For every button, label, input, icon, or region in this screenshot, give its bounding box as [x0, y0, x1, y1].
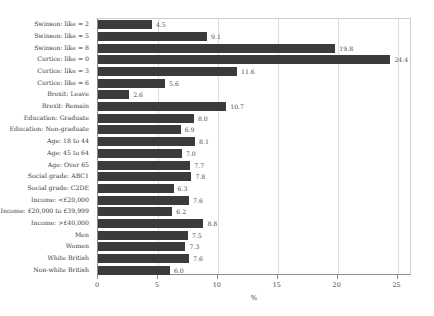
x-axis-tick-label: 15 — [273, 281, 281, 289]
bar-chart: Swinson: like = 2Swinson: like = 5Swinso… — [0, 0, 434, 316]
bar-row[interactable]: 2.6 — [98, 90, 143, 99]
category-label: Swinson: like = 8 — [0, 43, 93, 52]
category-label: Brexit: Remain — [0, 101, 93, 110]
bar-row[interactable]: 8.8 — [98, 219, 217, 228]
category-label: Brexit: Leave — [0, 89, 93, 98]
bar-row[interactable]: 7.6 — [98, 196, 203, 205]
bar-value-label: 4.5 — [156, 20, 166, 29]
bar[interactable] — [98, 266, 170, 275]
bar-value-label: 8.8 — [207, 219, 217, 228]
x-axis-tick-label: 25 — [393, 281, 401, 289]
bar[interactable] — [98, 254, 189, 263]
bar-value-label: 6.3 — [178, 184, 188, 193]
category-label: Swinson: like = 5 — [0, 31, 93, 40]
category-label: Income: >£40,000 — [0, 218, 93, 227]
bar[interactable] — [98, 32, 207, 41]
bar-row[interactable]: 19.8 — [98, 44, 353, 53]
category-axis-labels: Swinson: like = 2Swinson: like = 5Swinso… — [0, 18, 93, 275]
bar-value-label: 19.8 — [339, 44, 353, 53]
x-axis-tick-label: 0 — [95, 281, 99, 289]
bar[interactable] — [98, 231, 188, 240]
category-label: White British — [0, 253, 93, 262]
bar-row[interactable]: 7.3 — [98, 242, 199, 251]
bar-row[interactable]: 24.4 — [98, 55, 408, 64]
bar-value-label: 7.0 — [186, 149, 196, 158]
bar-row[interactable]: 7.6 — [98, 254, 203, 263]
bar-row[interactable]: 6.9 — [98, 125, 195, 134]
category-label: Curtice: like = 3 — [0, 66, 93, 75]
bar[interactable] — [98, 79, 165, 88]
bar[interactable] — [98, 55, 390, 64]
category-label: Income: £20,000 to £39,999 — [0, 206, 93, 215]
category-label: Social grade: C2DE — [0, 183, 93, 192]
bar-value-label: 7.3 — [189, 242, 199, 251]
bar-row[interactable]: 8.1 — [98, 137, 209, 146]
bar-value-label: 6.2 — [176, 207, 186, 216]
x-axis-tick — [337, 275, 338, 279]
bar-value-label: 9.1 — [211, 32, 221, 41]
bar[interactable] — [98, 67, 237, 76]
bar-value-label: 10.7 — [230, 102, 244, 111]
bar[interactable] — [98, 196, 189, 205]
bar-row[interactable]: 6.3 — [98, 184, 187, 193]
bar[interactable] — [98, 219, 203, 228]
category-label: Age: 45 to 64 — [0, 148, 93, 157]
bar-row[interactable]: 7.8 — [98, 172, 205, 181]
bar-row[interactable]: 4.5 — [98, 20, 166, 29]
bar[interactable] — [98, 149, 182, 158]
x-axis: % 0510152025 — [97, 275, 411, 315]
category-label: Social grade: ABC1 — [0, 171, 93, 180]
bar-row[interactable]: 11.6 — [98, 67, 255, 76]
bar[interactable] — [98, 172, 191, 181]
x-axis-tick — [97, 275, 98, 279]
category-label: Curtice: like = 0 — [0, 54, 93, 63]
x-axis-title: % — [97, 294, 411, 302]
x-axis-tick-label: 5 — [155, 281, 159, 289]
bar[interactable] — [98, 242, 185, 251]
bar-value-label: 5.6 — [169, 79, 179, 88]
category-label: Education: Non-graduate — [0, 124, 93, 133]
bar[interactable] — [98, 184, 174, 193]
bar-value-label: 24.4 — [394, 55, 408, 64]
bar-row[interactable]: 7.7 — [98, 161, 204, 170]
category-label: Non-white British — [0, 265, 93, 274]
category-label: Education: Graduate — [0, 113, 93, 122]
category-label: Income: <£20,000 — [0, 195, 93, 204]
x-axis-tick-label: 10 — [213, 281, 221, 289]
bar-value-label: 7.5 — [192, 231, 202, 240]
bar[interactable] — [98, 90, 129, 99]
bar-row[interactable]: 6.2 — [98, 207, 186, 216]
plot-area: 4.59.119.824.411.65.62.610.78.06.98.17.0… — [97, 18, 411, 275]
bar[interactable] — [98, 102, 226, 111]
bar-value-label: 6.0 — [174, 266, 184, 275]
bar[interactable] — [98, 137, 195, 146]
bar[interactable] — [98, 114, 194, 123]
bars-layer: 4.59.119.824.411.65.62.610.78.06.98.17.0… — [98, 19, 410, 274]
bar-value-label: 8.1 — [199, 137, 209, 146]
bar[interactable] — [98, 20, 152, 29]
bar-row[interactable]: 6.0 — [98, 266, 184, 275]
bar-row[interactable]: 5.6 — [98, 79, 179, 88]
bar-row[interactable]: 7.5 — [98, 231, 202, 240]
bar-row[interactable]: 9.1 — [98, 32, 221, 41]
bar-value-label: 11.6 — [241, 67, 255, 76]
bar[interactable] — [98, 44, 335, 53]
category-label: Men — [0, 230, 93, 239]
bar[interactable] — [98, 161, 190, 170]
category-label: Age: 18 to 44 — [0, 136, 93, 145]
category-label: Women — [0, 241, 93, 250]
bar[interactable] — [98, 207, 172, 216]
x-axis-tick — [157, 275, 158, 279]
category-label: Age: Over 65 — [0, 160, 93, 169]
bar-value-label: 2.6 — [133, 90, 143, 99]
bar[interactable] — [98, 125, 181, 134]
bar-value-label: 7.8 — [195, 172, 205, 181]
category-label: Curtice: like = 6 — [0, 78, 93, 87]
bar-value-label: 7.6 — [193, 254, 203, 263]
bar-row[interactable]: 7.0 — [98, 149, 196, 158]
x-axis-tick — [277, 275, 278, 279]
bar-row[interactable]: 10.7 — [98, 102, 244, 111]
bar-row[interactable]: 8.0 — [98, 114, 208, 123]
bar-value-label: 7.7 — [194, 161, 204, 170]
x-axis-tick — [217, 275, 218, 279]
